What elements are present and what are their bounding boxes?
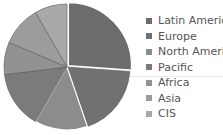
legend-item-africa[interactable]: Africa xyxy=(146,75,223,91)
legend-label: Pacific xyxy=(158,61,193,74)
legend-item-cis[interactable]: CIS xyxy=(146,106,223,122)
legend-item-europe[interactable]: Europe xyxy=(146,29,223,45)
legend-swatch-icon xyxy=(146,49,152,55)
pie-slice-latin-america[interactable] xyxy=(68,3,131,70)
legend-item-pacific[interactable]: Pacific xyxy=(146,60,223,76)
legend-label: North America xyxy=(158,45,223,58)
legend-swatch-icon xyxy=(146,111,152,117)
legend-swatch-icon xyxy=(146,64,152,70)
legend-label: Africa xyxy=(158,76,189,89)
legend-item-latin-america[interactable]: Latin America xyxy=(146,13,223,29)
legend-label: Asia xyxy=(158,92,181,105)
legend-label: CIS xyxy=(158,107,176,120)
legend-swatch-icon xyxy=(146,18,152,24)
legend-label: Europe xyxy=(158,30,197,43)
legend-item-asia[interactable]: Asia xyxy=(146,91,223,107)
legend-swatch-icon xyxy=(146,33,152,39)
legend-swatch-icon xyxy=(146,80,152,86)
legend-item-north-america[interactable]: North America xyxy=(146,44,223,60)
pie-chart xyxy=(0,0,136,135)
legend-label: Latin America xyxy=(158,14,223,27)
legend-swatch-icon xyxy=(146,95,152,101)
legend: Latin America Europe North America Pacif… xyxy=(146,13,223,122)
